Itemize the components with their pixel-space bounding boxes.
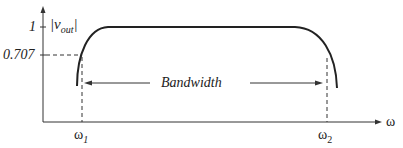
bandwidth-label: Bandwidth xyxy=(161,76,222,90)
y-tick-label-1: 1 xyxy=(29,20,36,34)
x-axis-arrowhead xyxy=(375,120,382,125)
omega2-label: ω2 xyxy=(318,128,332,142)
omega1-label: ω1 xyxy=(74,128,88,142)
y-axis-arrowhead xyxy=(41,6,46,13)
y-axis-label: |vout| xyxy=(50,17,78,32)
bandwidth-arrowhead-left xyxy=(84,81,92,86)
y-tick-label-0707: 0.707 xyxy=(3,48,35,62)
bandwidth-arrowhead-right xyxy=(315,81,323,86)
x-axis-label: ω xyxy=(386,115,395,129)
